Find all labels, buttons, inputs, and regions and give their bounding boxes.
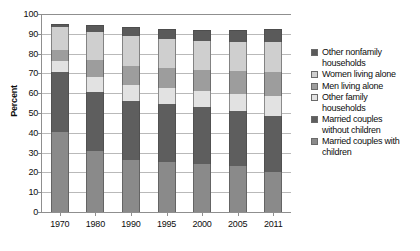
bar-segment[interactable]: [122, 27, 140, 36]
bar-segment[interactable]: [193, 41, 211, 70]
bar-segment[interactable]: [229, 111, 247, 167]
y-tick-label: 50: [28, 109, 38, 118]
bar-segment[interactable]: [264, 96, 282, 116]
bar-segment[interactable]: [86, 151, 104, 212]
legend-item[interactable]: Other nonfamily households: [311, 47, 419, 68]
legend-item[interactable]: Women living alone: [311, 69, 419, 80]
bar-segment[interactable]: [229, 71, 247, 93]
y-tick-label: 100: [24, 10, 38, 19]
x-tick-mark: [273, 212, 274, 216]
legend-swatch-icon: [311, 71, 318, 78]
bar-group[interactable]: [229, 14, 247, 212]
legend-item[interactable]: Married couples with children: [311, 136, 419, 157]
bar-segment[interactable]: [229, 94, 247, 111]
x-tick-label: 1990: [121, 219, 140, 229]
bar-segment[interactable]: [158, 88, 176, 104]
bar-segment[interactable]: [86, 92, 104, 151]
legend-swatch-icon: [311, 49, 318, 56]
y-tick-label: 30: [28, 148, 38, 157]
bars-layer: [42, 14, 291, 212]
bar-segment[interactable]: [264, 172, 282, 212]
bar-segment[interactable]: [122, 66, 140, 85]
y-tick-label: 0: [33, 208, 38, 217]
x-tick-mark: [238, 212, 239, 216]
x-tick-label: 2000: [192, 219, 211, 229]
legend-swatch-icon: [311, 116, 318, 123]
chart-legend: Other nonfamily householdsWomen living a…: [311, 47, 419, 158]
bar-group[interactable]: [86, 14, 104, 212]
bar-segment[interactable]: [158, 162, 176, 212]
x-tick-mark: [60, 212, 61, 216]
legend-label: Other nonfamily households: [322, 47, 382, 68]
stacked-bar-chart: Percent 0102030405060708090100 197019801…: [0, 0, 420, 251]
bar-stack: [86, 14, 104, 212]
bar-segment[interactable]: [193, 164, 211, 212]
bar-group[interactable]: [122, 14, 140, 212]
bar-segment[interactable]: [51, 132, 69, 212]
bar-segment[interactable]: [229, 30, 247, 42]
y-tick-label: 20: [28, 168, 38, 177]
bar-segment[interactable]: [158, 68, 176, 88]
x-tick-mark: [202, 212, 203, 216]
bar-segment[interactable]: [229, 166, 247, 212]
bar-segment[interactable]: [264, 72, 282, 96]
legend-label: Other family households: [322, 92, 368, 113]
bar-segment[interactable]: [51, 27, 69, 50]
bar-segment[interactable]: [264, 116, 282, 172]
bar-stack: [122, 14, 140, 212]
bar-segment[interactable]: [264, 29, 282, 42]
y-tick-label: 10: [28, 188, 38, 197]
bar-segment[interactable]: [193, 70, 211, 91]
bar-segment[interactable]: [86, 60, 104, 77]
y-tick-label: 70: [28, 69, 38, 78]
bar-segment[interactable]: [158, 29, 176, 39]
bar-segment[interactable]: [264, 42, 282, 72]
legend-swatch-icon: [311, 94, 318, 101]
bar-segment[interactable]: [51, 61, 69, 72]
bar-group[interactable]: [193, 14, 211, 212]
bar-group[interactable]: [158, 14, 176, 212]
bar-segment[interactable]: [229, 42, 247, 72]
y-tick-label: 90: [28, 29, 38, 38]
x-tick-label: 1980: [86, 219, 105, 229]
bar-segment[interactable]: [86, 77, 104, 92]
bar-stack: [264, 14, 282, 212]
legend-label: Married couples without children: [322, 114, 382, 135]
x-tick-mark: [95, 212, 96, 216]
legend-label: Women living alone: [322, 69, 396, 80]
bar-segment[interactable]: [86, 32, 104, 60]
y-axis-title: Percent: [9, 66, 19, 136]
legend-item[interactable]: Men living alone: [311, 81, 419, 92]
bar-stack: [193, 14, 211, 212]
bar-segment[interactable]: [122, 36, 140, 66]
bar-segment[interactable]: [122, 101, 140, 160]
x-tick-mark: [167, 212, 168, 216]
bar-stack: [158, 14, 176, 212]
x-tick-label: 2011: [264, 219, 283, 229]
x-tick-mark: [131, 212, 132, 216]
x-tick-label: 2005: [228, 219, 247, 229]
legend-label: Men living alone: [322, 81, 383, 92]
legend-item[interactable]: Other family households: [311, 92, 419, 113]
y-tick-label: 60: [28, 89, 38, 98]
bar-segment[interactable]: [193, 30, 211, 41]
bar-segment[interactable]: [193, 91, 211, 107]
y-tick-label: 40: [28, 128, 38, 137]
bar-stack: [229, 14, 247, 212]
legend-label: Married couples with children: [322, 136, 400, 157]
legend-item[interactable]: Married couples without children: [311, 114, 419, 135]
x-tick-label: 1995: [157, 219, 176, 229]
y-tick-label: 80: [28, 49, 38, 58]
bar-segment[interactable]: [158, 104, 176, 161]
bar-segment[interactable]: [86, 25, 104, 32]
bar-stack: [51, 14, 69, 212]
bar-segment[interactable]: [193, 107, 211, 164]
bar-group[interactable]: [51, 14, 69, 212]
bar-segment[interactable]: [122, 160, 140, 212]
bar-segment[interactable]: [51, 72, 69, 132]
bar-group[interactable]: [264, 14, 282, 212]
bar-segment[interactable]: [51, 50, 69, 61]
bar-segment[interactable]: [158, 39, 176, 68]
legend-swatch-icon: [311, 83, 318, 90]
bar-segment[interactable]: [122, 85, 140, 101]
